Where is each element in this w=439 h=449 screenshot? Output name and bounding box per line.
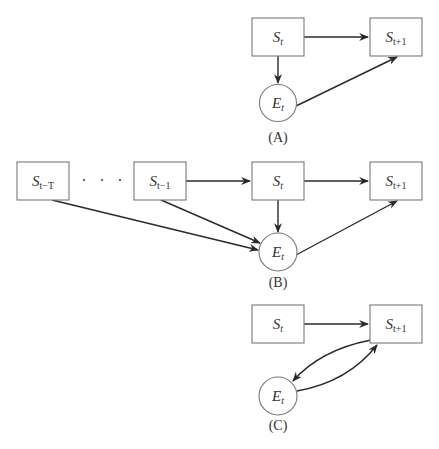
edge-st-T-to-et [52,200,258,250]
diagram-c: St St+1 Et (C) [252,305,422,434]
node-e-t: Et [259,233,297,271]
node-s-t-plus-1: St+1 [370,305,422,343]
edge-st-1-to-et [161,200,260,243]
caption-a: (A) [268,130,288,146]
diagram-b: St−T St−1 St St+1 Et (B) [17,162,422,291]
caption-c: (C) [269,418,288,434]
node-s-t: St [252,18,304,56]
node-s-t-plus-1: St+1 [370,18,422,56]
caption-b: (B) [269,275,288,291]
ellipsis-dots [83,179,121,181]
diagram-a: St St+1 Et (A) [252,18,422,146]
edge-et-to-st1 [296,57,397,106]
node-e-t: Et [260,85,297,122]
edge-et-to-st1 [296,201,397,255]
edge-et-to-st1-curved [297,345,377,391]
edge-st1-to-et-curved [293,340,371,381]
node-s-t: St [252,305,304,343]
node-s-t: St [252,162,304,200]
node-s-t-minus-T: St−T [17,162,69,200]
causal-diagram-canvas: St St+1 Et (A) St−T St−1 [0,0,439,449]
node-e-t: Et [259,377,297,415]
node-s-t-plus-1: St+1 [370,162,422,200]
node-s-t-minus-1: St−1 [134,162,186,200]
